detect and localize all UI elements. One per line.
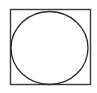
canvas-background <box>0 0 97 93</box>
geometry-figure <box>0 0 97 93</box>
figure-canvas <box>0 0 97 93</box>
